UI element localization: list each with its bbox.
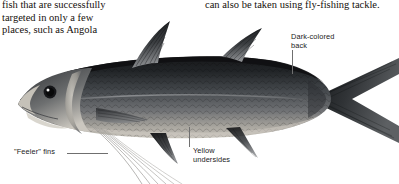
annotation-dark-colored-back: Dark-colored back (291, 33, 361, 50)
book-page-excerpt: fish that are successfully targeted in o… (0, 0, 399, 184)
second-dorsal-fin (222, 28, 262, 62)
leader-line-dark-colored-back (292, 50, 293, 74)
annotation-feeler-fins: "Feeler" fins (14, 148, 94, 157)
leader-line-yellow-undersides (189, 127, 190, 147)
annotation-yellow-undersides: Yellow undersides (193, 147, 263, 164)
